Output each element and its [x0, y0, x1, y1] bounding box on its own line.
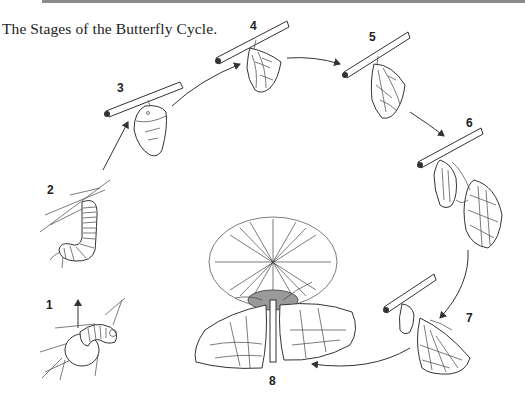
stage-7-number: 7: [466, 311, 473, 325]
flower: [209, 217, 337, 310]
stage-7-illustration: [383, 274, 470, 374]
stage-1-illustration: [40, 298, 125, 380]
arrow-3-to-4: [172, 64, 240, 106]
stage-1-number: 1: [46, 298, 53, 312]
stage-6-illustration: [417, 128, 502, 248]
stage-8-number: 8: [269, 374, 276, 388]
butterfly-cycle-diagram: 1 2 3 4 5: [0, 0, 525, 406]
stage-2-number: 2: [47, 183, 54, 197]
arrow-4-to-5: [287, 58, 340, 64]
arrow-6-to-7: [440, 250, 468, 318]
arrow-2-to-3: [103, 122, 128, 170]
stage-8-illustration: [195, 217, 355, 368]
stage-6-number: 6: [466, 116, 473, 130]
stage-3-number: 3: [117, 81, 124, 95]
stage-5-illustration: [342, 32, 410, 118]
stage-4-number: 4: [250, 19, 257, 33]
arrow-5-to-6: [410, 112, 444, 136]
stage-5-number: 5: [369, 30, 376, 44]
